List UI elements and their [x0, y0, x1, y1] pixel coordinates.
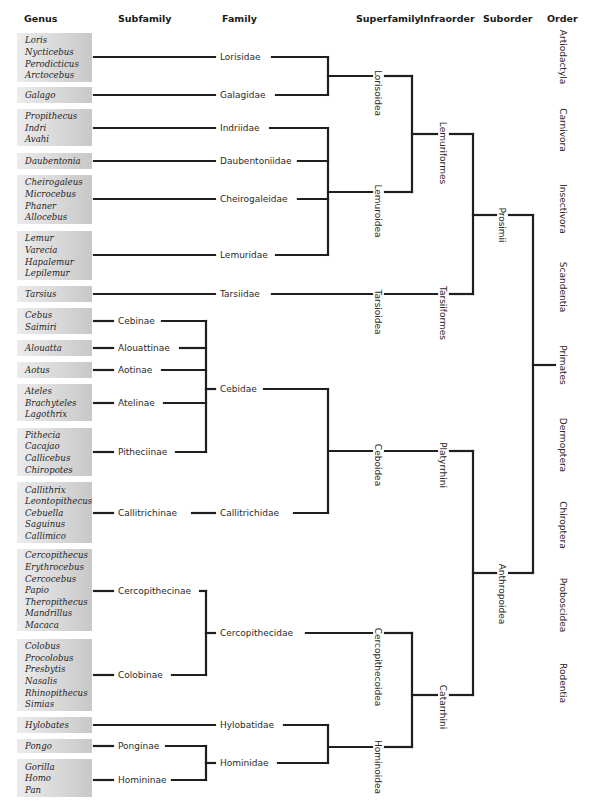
genus-brachyteles: Brachyteles	[24, 398, 77, 408]
genus-group: CallithrixLeontopithecusCebuellaSaguinus…	[17, 482, 93, 543]
genus-loris: Loris	[24, 35, 48, 45]
superfamily-lemuroidea: Lemuroidea	[373, 184, 383, 237]
genus-varecia: Varecia	[25, 245, 57, 255]
genus-group: Pongo	[17, 739, 92, 753]
order-insectivora: Insectivora	[558, 184, 568, 234]
infraorder-lemuriformes: Lemuriformes	[438, 122, 448, 185]
header-genus: Genus	[24, 13, 58, 24]
genus-callithrix: Callithrix	[25, 485, 66, 495]
subfamily-colobinae: Colobinae	[118, 670, 163, 680]
genus-group: Daubentonia	[17, 153, 92, 169]
order-rodentia: Rodentia	[558, 663, 568, 703]
family-hylobatidae: Hylobatidae	[220, 720, 275, 730]
genus-cercocebus: Cercocebus	[25, 574, 77, 584]
order-proboscidea: Proboscidea	[558, 578, 568, 632]
genus-lepilemur: Lepilemur	[24, 268, 71, 278]
subfamily-homininae: Homininae	[118, 775, 167, 785]
header-suborder: Suborder	[483, 13, 533, 24]
genus-column: LorisNycticebusPerodicticusArctocebusGal…	[17, 33, 93, 797]
family-galagidae: Galagidae	[220, 90, 266, 100]
suborder-anthropoidea: Anthropoidea	[497, 564, 507, 625]
superfamily-hominoidea: Hominoidea	[373, 740, 383, 794]
genus-propithecus: Propithecus	[24, 111, 78, 121]
genus-group: LemurVareciaHapalemurLepilemur	[17, 231, 92, 280]
genus-nasalis: Nasalis	[24, 676, 58, 686]
order-artiodactyla: Artiodactyla	[558, 30, 568, 84]
family-cercopithecidae: Cercopithecidae	[220, 628, 293, 638]
genus-group: PitheciaCacajaoCallicebusChiropotes	[17, 428, 92, 476]
infraorder-platyrrhini: Platyrrhini	[438, 442, 448, 488]
genus-alouatta: Alouatta	[24, 343, 62, 353]
family-indriidae: Indriidae	[220, 123, 260, 133]
genus-theropithecus: Theropithecus	[25, 597, 88, 607]
subfamily-cercopithecinae: Cercopithecinae	[118, 586, 191, 596]
genus-daubentonia: Daubentonia	[24, 156, 81, 166]
genus-presbytis: Presbytis	[24, 664, 66, 674]
order-chiroptera: Chiroptera	[558, 501, 568, 549]
genus-group: CercopithecusErythrocebusCercocebusPapio…	[17, 549, 92, 631]
genus-arctocebus: Arctocebus	[24, 70, 75, 80]
subfamily-atelinae: Atelinae	[118, 398, 155, 408]
genus-homo: Homo	[24, 773, 51, 783]
primate-classification-diagram: GenusSubfamilyFamilySuperfamilyInfraorde…	[0, 0, 591, 810]
genus-pithecia: Pithecia	[24, 430, 60, 440]
superfamily-ceboidea: Ceboidea	[373, 444, 383, 486]
genus-chiropotes: Chiropotes	[25, 465, 73, 475]
order-scandentia: Scandentia	[558, 262, 568, 312]
genus-erythrocebus: Erythrocebus	[24, 562, 84, 572]
genus-leontopithecus: Leontopithecus	[24, 496, 93, 506]
order-dermoptera: Dermoptera	[558, 418, 568, 472]
family-lorisidae: Lorisidae	[220, 52, 261, 62]
order-primates: Primates	[558, 345, 568, 385]
genus-group: AtelesBrachytelesLagothrix	[17, 384, 92, 421]
column-headers: GenusSubfamilyFamilySuperfamilyInfraorde…	[24, 13, 578, 24]
genus-procolobus: Procolobus	[24, 653, 74, 663]
genus-group: LorisNycticebusPerodicticusArctocebus	[17, 33, 92, 82]
genus-pan: Pan	[24, 785, 41, 795]
family-tarsiidae: Tarsiidae	[219, 289, 260, 299]
genus-nycticebus: Nycticebus	[24, 47, 74, 57]
genus-group: Alouatta	[17, 340, 92, 356]
genus-perodicticus: Perodicticus	[24, 59, 79, 69]
genus-group: CheirogaleusMicrocebusPhanerAllocebus	[17, 175, 92, 224]
family-lemuridae: Lemuridae	[220, 250, 268, 260]
genus-galago: Galago	[25, 90, 56, 100]
genus-cebuella: Cebuella	[25, 508, 63, 518]
genus-macaca: Macaca	[24, 620, 59, 630]
genus-ateles: Ateles	[24, 386, 52, 396]
suborder-prosimii: Prosimii	[497, 207, 507, 242]
genus-group: ColobusProcolobusPresbytisNasalisRhinopi…	[17, 639, 92, 711]
header-order: Order	[547, 13, 578, 24]
family-callitrichidae: Callitrichidae	[220, 508, 279, 518]
genus-hylobates: Hylobates	[24, 720, 69, 730]
header-superfamily: Superfamily	[356, 13, 421, 24]
genus-cercopithecus: Cercopithecus	[25, 550, 88, 560]
infraorder-catarrhini: Catarrhini	[438, 685, 448, 729]
genus-group: Galago	[17, 87, 92, 103]
genus-indri: Indri	[24, 123, 47, 133]
tree-connectors	[94, 57, 555, 780]
infraorder-tarsiiformes: Tarsiiformes	[438, 285, 448, 340]
genus-avahi: Avahi	[24, 134, 49, 144]
genus-group: Aotus	[17, 362, 92, 378]
genus-mandrillus: Mandrillus	[24, 608, 73, 618]
genus-phaner: Phaner	[24, 201, 57, 211]
genus-cacajao: Cacajao	[25, 441, 60, 451]
header-family: Family	[222, 13, 258, 24]
genus-allocebus: Allocebus	[24, 212, 68, 222]
genus-saguinus: Saguinus	[25, 519, 66, 529]
genus-cebus: Cebus	[25, 310, 53, 320]
superfamily-cercopithecoidea: Cercopithecoidea	[373, 628, 383, 706]
genus-simias: Simias	[25, 699, 55, 709]
family-cebidae: Cebidae	[220, 384, 257, 394]
header-subfamily: Subfamily	[118, 13, 172, 24]
genus-tarsius: Tarsius	[25, 289, 57, 299]
genus-papio: Papio	[24, 585, 49, 595]
subfamily-callitrichinae: Callitrichinae	[118, 508, 177, 518]
family-cheirogaleidae: Cheirogaleidae	[220, 194, 288, 204]
superfamily-lorisoidea: Lorisoidea	[373, 70, 383, 116]
genus-group: Tarsius	[17, 286, 92, 302]
genus-microcebus: Microcebus	[24, 189, 77, 199]
family-hominidae: Hominidae	[220, 758, 269, 768]
superfamily-tarsioidea: Tarsioidea	[373, 288, 383, 334]
